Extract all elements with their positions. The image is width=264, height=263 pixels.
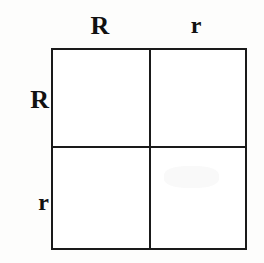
column-header-allele-1: R — [80, 13, 120, 39]
grid-horizontal-divider — [53, 146, 245, 148]
column-header-allele-2: r — [176, 13, 216, 37]
punnett-square-figure: R r R r — [0, 0, 264, 263]
grid-vertical-divider — [149, 50, 151, 248]
punnett-cell-top-left[interactable] — [53, 50, 149, 146]
row-header-allele-1: R — [15, 87, 49, 113]
punnett-grid — [51, 48, 247, 250]
punnett-cell-bottom-left[interactable] — [53, 148, 149, 248]
punnett-cell-bottom-right[interactable] — [151, 148, 245, 248]
punnett-cell-top-right[interactable] — [151, 50, 245, 146]
row-header-allele-2: r — [15, 190, 49, 214]
